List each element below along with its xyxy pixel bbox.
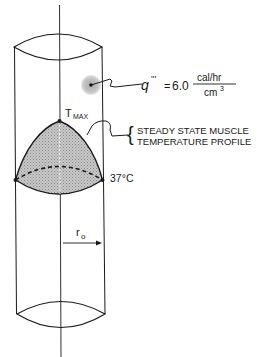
profile-dome-fill — [16, 121, 103, 194]
boundary-point-right — [101, 178, 105, 182]
heat-generation-label: q ''' = 6.0 cal/hr cm 3 — [141, 72, 236, 98]
temperature-profile — [14, 119, 105, 194]
unit-numerator: cal/hr — [197, 72, 222, 83]
unit-denominator: cm — [204, 87, 217, 98]
radius-arrow-head — [96, 241, 102, 246]
t-max-symbol: T — [65, 107, 72, 119]
boundary-temperature-label: 37°C — [110, 172, 134, 184]
t-max-point — [58, 119, 62, 123]
q-symbol: q — [141, 77, 149, 93]
profile-leader — [87, 121, 128, 136]
t-max-subscript: MAX — [73, 113, 89, 120]
q-primes: ''' — [151, 74, 156, 84]
q-equals: = — [164, 80, 170, 92]
cylinder-top-ellipse — [14, 34, 102, 60]
profile-brace-icon: { — [127, 123, 134, 145]
t-max-label: T MAX — [65, 107, 89, 120]
profile-label-line2: TEMPERATURE PROFILE — [137, 136, 251, 147]
q-value: 6.0 — [172, 79, 189, 93]
unit-denominator-exponent: 3 — [220, 85, 224, 92]
profile-label-line1: STEADY STATE MUSCLE — [137, 125, 249, 136]
radius-subscript: o — [81, 232, 86, 241]
muscle-cylinder-diagram: q ''' = 6.0 cal/hr cm 3 T MAX { STEADY S… — [0, 0, 269, 357]
radius-indicator: r o — [63, 226, 102, 246]
radius-symbol: r — [76, 226, 80, 238]
boundary-point-left — [14, 178, 18, 182]
